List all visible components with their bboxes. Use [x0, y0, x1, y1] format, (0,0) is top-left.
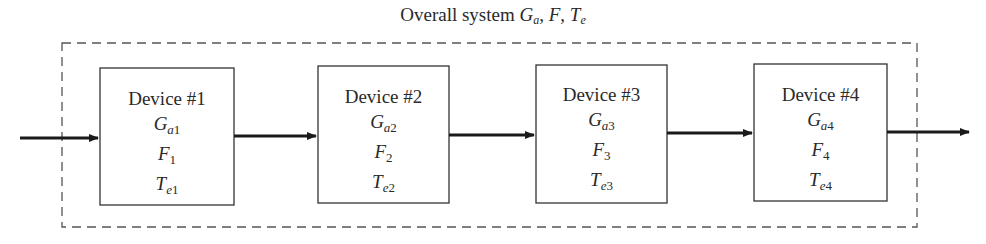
device-3-noise-temperature: Te3: [536, 168, 667, 198]
temperature-subscript-index: 3: [606, 178, 613, 193]
device-4-gain: Ga4: [754, 108, 887, 138]
noise-figure-subscript: 1: [170, 152, 177, 167]
temperature-symbol: T: [156, 173, 167, 194]
device-4-name: Device #4: [754, 83, 887, 107]
noise-figure-subscript: 4: [823, 148, 830, 163]
device-2: Device #2 Ga2 F2 Te2: [318, 85, 449, 200]
noise-figure-subscript: 2: [386, 150, 393, 165]
noise-figure-symbol: F: [811, 139, 823, 160]
device-3-name: Device #3: [536, 83, 667, 107]
device-1-name: Device #1: [100, 87, 234, 111]
device-1-noise-temperature: Te1: [100, 172, 234, 202]
noise-figure-symbol: F: [592, 139, 604, 160]
temperature-symbol: T: [372, 171, 383, 192]
device-3-noise-figure: F3: [536, 138, 667, 168]
gain-subscript-index: 1: [174, 122, 181, 137]
gain-symbol: G: [154, 113, 168, 134]
noise-figure-symbol: F: [158, 143, 170, 164]
temperature-symbol: T: [809, 169, 820, 190]
gain-subscript-index: 2: [390, 120, 397, 135]
gain-symbol: G: [370, 111, 384, 132]
device-2-name: Device #2: [318, 85, 449, 109]
gain-subscript-index: 4: [827, 118, 834, 133]
device-1: Device #1 Ga1 F1 Te1: [100, 87, 234, 202]
gain-subscript-index: 3: [608, 118, 615, 133]
noise-figure-subscript: 3: [604, 148, 611, 163]
temperature-subscript-index: 1: [172, 182, 179, 197]
gain-symbol: G: [588, 109, 602, 130]
device-1-noise-figure: F1: [100, 142, 234, 172]
device-4-noise-temperature: Te4: [754, 168, 887, 198]
temperature-subscript-index: 2: [388, 180, 395, 195]
device-1-gain: Ga1: [100, 112, 234, 142]
device-3-gain: Ga3: [536, 108, 667, 138]
device-2-noise-temperature: Te2: [318, 170, 449, 200]
temperature-symbol: T: [590, 169, 601, 190]
device-3: Device #3 Ga3 F3 Te3: [536, 83, 667, 198]
temperature-subscript-index: 4: [825, 178, 832, 193]
device-4: Device #4 Ga4 F4 Te4: [754, 83, 887, 198]
gain-symbol: G: [807, 109, 821, 130]
device-2-gain: Ga2: [318, 110, 449, 140]
noise-figure-symbol: F: [374, 141, 386, 162]
device-4-noise-figure: F4: [754, 138, 887, 168]
device-2-noise-figure: F2: [318, 140, 449, 170]
